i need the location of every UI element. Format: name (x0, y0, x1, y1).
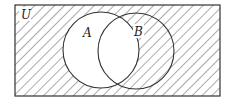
venn-svg: U A B (0, 0, 234, 105)
set-b-label: B (133, 25, 143, 39)
venn-diagram: U A B (0, 0, 234, 105)
set-a-label: A (82, 26, 92, 40)
universe-label: U (21, 8, 32, 22)
